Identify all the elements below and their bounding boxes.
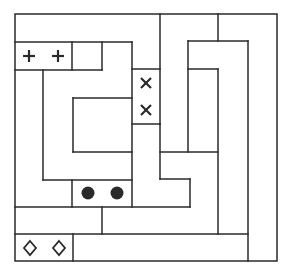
cross-icon	[141, 78, 151, 88]
plus-icon	[52, 50, 64, 62]
diamond-icon	[53, 241, 65, 255]
filled-circle-icon	[111, 187, 124, 200]
diamond-piece[interactable]	[24, 241, 65, 255]
plus-icon	[23, 50, 35, 62]
plus-piece[interactable]	[23, 50, 64, 62]
outer-frame	[15, 14, 277, 261]
dot-piece[interactable]	[82, 187, 124, 200]
diamond-icon	[24, 241, 36, 255]
cross-piece[interactable]	[141, 78, 151, 115]
filled-circle-icon	[82, 187, 95, 200]
cross-icon	[141, 105, 151, 115]
puzzle-board	[0, 0, 290, 273]
